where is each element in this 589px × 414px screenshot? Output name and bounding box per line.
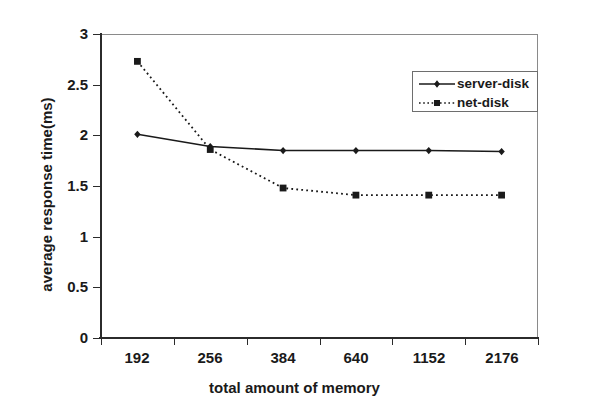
series-layer xyxy=(0,0,589,414)
data-point-marker-diamond xyxy=(280,147,286,154)
data-point-marker-diamond xyxy=(426,147,432,154)
data-point-marker-square xyxy=(498,192,505,199)
legend-item-net-disk: net-disk xyxy=(413,93,537,112)
data-point-marker-diamond xyxy=(353,147,359,154)
data-point-marker-square xyxy=(353,192,360,199)
data-point-marker-square xyxy=(134,58,141,65)
data-point-marker-diamond xyxy=(498,148,504,155)
data-point-marker-square xyxy=(207,146,214,153)
legend-swatch-dotted-square-icon xyxy=(417,96,457,110)
legend-swatch-solid-diamond-icon xyxy=(417,77,457,91)
chart-figure: 00.511.522.53 19225638464011522176 avera… xyxy=(0,0,589,414)
legend: server-disk net-disk xyxy=(412,71,538,112)
series-line-server-disk xyxy=(137,134,501,151)
legend-label-net-disk: net-disk xyxy=(457,96,509,110)
data-point-marker-square xyxy=(280,185,287,192)
data-point-marker-square xyxy=(425,192,432,199)
data-point-marker-diamond xyxy=(134,131,140,138)
legend-label-server-disk: server-disk xyxy=(457,77,529,91)
legend-item-server-disk: server-disk xyxy=(413,74,537,93)
